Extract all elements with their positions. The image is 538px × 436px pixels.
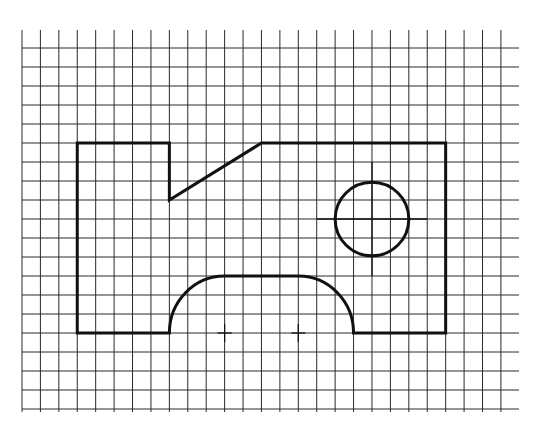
grid-drawing (0, 0, 538, 436)
hole-centerlines (317, 162, 428, 276)
